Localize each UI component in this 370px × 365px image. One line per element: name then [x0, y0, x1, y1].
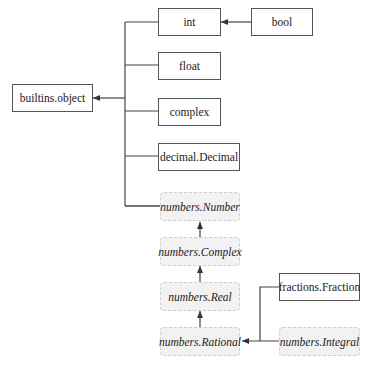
node-numbers-number: numbers.Number	[160, 192, 240, 221]
node-fractions-fraction: fractions.Fraction	[279, 273, 360, 301]
node-int: int	[158, 8, 221, 36]
node-bool: bool	[251, 8, 313, 36]
node-complex: complex	[158, 98, 221, 126]
node-numbers-complex: numbers.Complex	[160, 237, 240, 266]
node-float: float	[158, 52, 221, 80]
node-decimal: decimal.Decimal	[158, 143, 240, 171]
node-numbers-rational: numbers.Rational	[160, 327, 240, 356]
node-numbers-integral: numbers.Integral	[279, 327, 360, 356]
node-numbers-real: numbers.Real	[160, 282, 240, 311]
node-builtins-object: builtins.object	[12, 84, 93, 112]
